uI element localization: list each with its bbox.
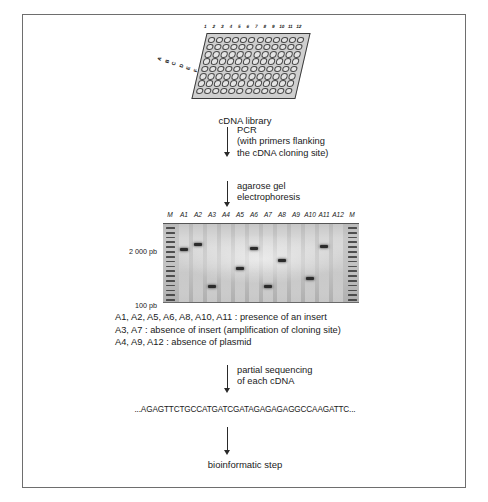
plate-well <box>223 73 232 80</box>
plate-perspective-wrapper <box>191 33 310 99</box>
plate-well <box>236 51 245 58</box>
gel-lane-label: A1 <box>177 211 191 223</box>
gel-band <box>180 248 189 251</box>
plate-well <box>220 51 229 58</box>
plate-well <box>207 73 216 80</box>
step-label-electrophoresis: agarose gel electrophoresis <box>237 181 300 204</box>
gel-lane-label: A5 <box>233 211 247 223</box>
gel-lane-label: A11 <box>317 211 331 223</box>
plate-well <box>277 51 286 58</box>
plate-well <box>238 80 247 87</box>
plate-well <box>201 66 210 73</box>
plate-well <box>288 73 297 80</box>
agarose-gel-image: MA1A2A3A4A5A6A7A8A9A10A11A12M <box>163 211 359 303</box>
plate-well <box>280 37 289 44</box>
plate-well <box>204 51 213 58</box>
plate-well <box>232 37 241 44</box>
gel-band <box>306 277 315 280</box>
plate-well <box>280 73 289 80</box>
gel-lane-column <box>305 224 315 302</box>
gel-lane-label: A9 <box>289 211 303 223</box>
plate-well <box>270 44 279 51</box>
legend-line-plasmid-absent: A4, A9, A12 : absence of plasmid <box>115 336 341 349</box>
gel-lane-column <box>319 224 329 302</box>
plate-column-labels: 123456789101112 <box>200 24 303 29</box>
gel-lane-labels: MA1A2A3A4A5A6A7A8A9A10A11A12M <box>163 211 359 223</box>
plate-well <box>264 37 273 44</box>
plate-well <box>264 73 273 80</box>
plate-well <box>254 80 263 87</box>
step-label-sequencing: partial sequencing of each cDNA <box>237 365 312 388</box>
gel-ladder-lane <box>348 227 357 301</box>
gel-lane-label: A8 <box>275 211 289 223</box>
plate-well <box>215 37 224 44</box>
plate-well <box>256 37 265 44</box>
gel-band <box>320 245 329 248</box>
plate-well <box>225 66 234 73</box>
gel-lane-label: A2 <box>191 211 205 223</box>
plate-well <box>262 80 271 87</box>
plate-column-label: 12 <box>294 24 304 29</box>
plate-well <box>295 44 304 51</box>
plate-well <box>296 37 305 44</box>
plate-well <box>195 88 204 95</box>
plate-well <box>227 58 236 65</box>
gel-surface <box>163 223 359 303</box>
plate-well <box>276 88 285 95</box>
plate-well <box>281 66 290 73</box>
final-step-label: bioinformatic step <box>23 459 467 470</box>
gel-legend: A1, A2, A5, A6, A8, A10, A11 : presence … <box>115 311 341 349</box>
plate-well <box>272 73 281 80</box>
step-label-pcr: PCR (with primers flanking the cDNA clon… <box>237 125 328 159</box>
plate-well <box>231 73 240 80</box>
plate-well <box>222 44 231 51</box>
plate-well-grid <box>195 37 306 95</box>
plate-well <box>278 80 287 87</box>
dna-sequence-readout: ...AGAGTTCTGCCATGATCGATAGAGAGAGGCCAAGATT… <box>23 405 467 414</box>
plate-well <box>275 58 284 65</box>
plate-well <box>215 73 224 80</box>
plate-well <box>257 66 266 73</box>
plate-well <box>287 44 296 51</box>
gel-size-marker-100: 100 pb <box>109 301 157 310</box>
arrow-to-pcr <box>223 127 232 157</box>
gel-lane-column <box>277 224 287 302</box>
plate-well <box>290 66 299 73</box>
plate-well <box>267 58 276 65</box>
plate-well <box>254 44 263 51</box>
plate-well <box>270 80 279 87</box>
plate-well <box>256 73 265 80</box>
plate-well <box>244 51 253 58</box>
gel-lane-label: A3 <box>205 211 219 223</box>
plate-well <box>260 88 269 95</box>
gel-lane-label: A7 <box>261 211 275 223</box>
gel-lane-label: A6 <box>247 211 261 223</box>
gel-lane-column <box>291 224 301 302</box>
figure-stage: 123456789101112 ABCDEFGH cDNA library PC… <box>23 15 465 487</box>
plate-well <box>252 51 261 58</box>
arrow-to-electrophoresis <box>223 181 232 207</box>
gel-band <box>208 285 217 288</box>
gel-band <box>250 247 259 250</box>
plate-well <box>249 66 258 73</box>
gel-lane-label: A10 <box>303 211 317 223</box>
plate-well <box>283 58 292 65</box>
figure-border: 123456789101112 ABCDEFGH cDNA library PC… <box>22 14 466 488</box>
gel-lane-column <box>179 224 189 302</box>
gel-ladder-lane <box>166 227 175 301</box>
plate-well <box>230 44 239 51</box>
plate-well <box>205 80 214 87</box>
plate-well <box>243 58 252 65</box>
plate-well <box>293 51 302 58</box>
plate-well <box>252 88 261 95</box>
plate-well <box>228 51 237 58</box>
plate-well <box>235 58 244 65</box>
arrow-to-bioinformatic-step <box>223 427 232 455</box>
plate-well <box>218 58 227 65</box>
plate-well <box>268 88 277 95</box>
plate-well <box>228 88 237 95</box>
plate-well <box>285 51 294 58</box>
plate-well <box>238 44 247 51</box>
gel-lane-column <box>333 224 343 302</box>
plate-well <box>259 58 268 65</box>
